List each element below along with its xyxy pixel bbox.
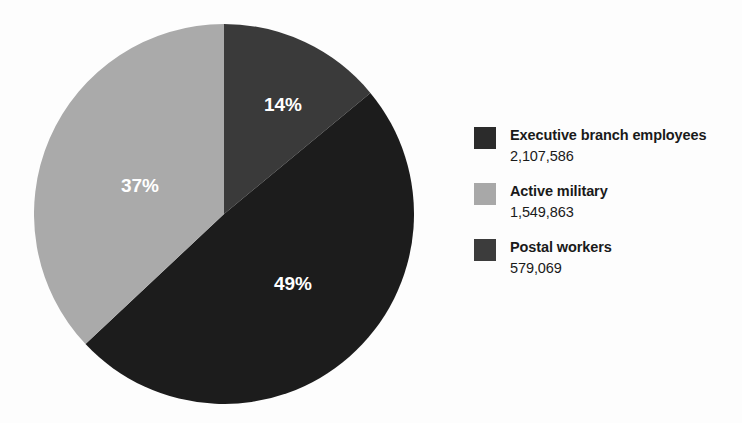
- legend-text-executive-branch-employees: Executive branch employees 2,107,586: [510, 126, 706, 165]
- legend-label-active-military: Active military: [510, 182, 608, 201]
- legend-item-executive-branch-employees[interactable]: Executive branch employees 2,107,586: [474, 126, 724, 165]
- legend-item-active-military[interactable]: Active military 1,549,863: [474, 182, 724, 221]
- pie-slice-label-postal-workers: 14%: [264, 94, 302, 115]
- pie-svg: 14% 49% 37%: [34, 24, 414, 404]
- legend-label-executive-branch-employees: Executive branch employees: [510, 126, 706, 145]
- legend-label-postal-workers: Postal workers: [510, 238, 612, 257]
- pie-slices: [34, 24, 414, 404]
- legend-text-postal-workers: Postal workers 579,069: [510, 238, 612, 277]
- legend-swatch-icon-postal-workers: [474, 239, 496, 261]
- pie-slice-label-executive-branch-employees: 49%: [274, 273, 312, 294]
- legend-value-active-military: 1,549,863: [510, 203, 608, 222]
- legend-value-executive-branch-employees: 2,107,586: [510, 147, 706, 166]
- pie-slice-label-active-military: 37%: [121, 175, 159, 196]
- pie-chart-figure: 14% 49% 37% Executive branch employees 2…: [0, 0, 742, 423]
- legend-text-active-military: Active military 1,549,863: [510, 182, 608, 221]
- pie-chart-graphic: 14% 49% 37%: [34, 24, 414, 404]
- chart-legend: Executive branch employees 2,107,586 Act…: [474, 126, 724, 277]
- legend-value-postal-workers: 579,069: [510, 259, 612, 278]
- legend-swatch-icon-active-military: [474, 183, 496, 205]
- legend-swatch-icon-executive-branch-employees: [474, 127, 496, 149]
- legend-item-postal-workers[interactable]: Postal workers 579,069: [474, 238, 724, 277]
